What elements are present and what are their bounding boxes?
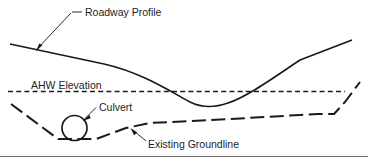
- culvert-profile-diagram: Roadway Profile AHW Elevation Culvert Ex…: [0, 0, 368, 164]
- ahw-elevation-label: AHW Elevation: [31, 79, 102, 91]
- culvert-circle: [62, 116, 87, 141]
- roadway-profile-leader-line: [37, 13, 71, 49]
- culvert-arrowhead: [83, 115, 91, 121]
- diagram-canvas: Roadway Profile AHW Elevation Culvert Ex…: [0, 0, 368, 164]
- existing-groundline-label: Existing Groundline: [148, 138, 239, 150]
- culvert-label: Culvert: [99, 101, 132, 113]
- existing-groundline-arrowhead: [131, 128, 138, 135]
- roadway-profile-line: [10, 40, 352, 106]
- culvert-leader-line: [85, 108, 96, 119]
- roadway-profile-label: Roadway Profile: [85, 6, 162, 18]
